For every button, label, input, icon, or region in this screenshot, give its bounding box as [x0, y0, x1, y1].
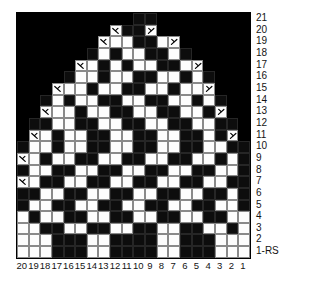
chart-cell-purl: [227, 165, 239, 177]
chart-cell-purl: [87, 188, 99, 200]
chart-cell-purl: [52, 153, 64, 165]
chart-cell-purl: [227, 246, 239, 258]
chart-cell-right-decrease: [227, 130, 239, 142]
chart-cell-purl: [145, 106, 157, 118]
knitting-chart: 212019181716151413121110987654321-RS 201…: [0, 0, 309, 281]
chart-cell-purl: [180, 60, 192, 72]
row-number-label: 19: [256, 35, 309, 47]
row-number-label: 16: [256, 70, 309, 82]
chart-cell-purl: [133, 106, 145, 118]
chart-cell-knit: [75, 188, 87, 200]
chart-cell-purl: [227, 153, 239, 165]
chart-cell-knit: [180, 234, 192, 246]
chart-cell-outside: [180, 13, 192, 25]
chart-cell-knit: [17, 188, 29, 200]
row-number-label: 18: [256, 47, 309, 59]
chart-cell-knit: [75, 106, 87, 118]
chart-cell-purl: [52, 95, 64, 107]
chart-cell-purl: [40, 165, 52, 177]
chart-cell-outside: [215, 25, 227, 37]
chart-cell-purl: [168, 130, 180, 142]
chart-grid: [16, 12, 251, 259]
chart-cell-knit: [157, 188, 169, 200]
chart-cell-purl: [215, 234, 227, 246]
chart-cell-outside: [17, 48, 29, 60]
chart-cell-purl: [180, 211, 192, 223]
chart-cell-outside: [238, 13, 250, 25]
chart-row: [17, 153, 250, 165]
chart-row: [17, 118, 250, 130]
chart-row: [17, 223, 250, 235]
chart-cell-purl: [75, 176, 87, 188]
chart-cell-knit: [227, 223, 239, 235]
chart-cell-purl: [215, 165, 227, 177]
chart-cell-purl: [75, 141, 87, 153]
chart-cell-purl: [87, 95, 99, 107]
chart-cell-purl: [40, 130, 52, 142]
chart-cell-knit: [40, 118, 52, 130]
column-number-label: 15: [74, 259, 86, 275]
k2tog-decrease-icon: [216, 107, 226, 117]
chart-cell-purl: [192, 106, 204, 118]
chart-cell-knit: [122, 234, 134, 246]
chart-cell-knit: [215, 130, 227, 142]
chart-cell-knit: [40, 223, 52, 235]
chart-cell-purl: [64, 118, 76, 130]
chart-cell-knit: [75, 153, 87, 165]
chart-cell-knit: [203, 234, 215, 246]
chart-cell-knit: [180, 118, 192, 130]
chart-cell-purl: [40, 141, 52, 153]
chart-cell-knit: [52, 246, 64, 258]
chart-cell-knit: [122, 153, 134, 165]
chart-cell-knit: [40, 153, 52, 165]
chart-cell-outside: [17, 83, 29, 95]
chart-cell-outside: [227, 36, 239, 48]
chart-cell-outside: [40, 71, 52, 83]
chart-cell-knit: [133, 71, 145, 83]
chart-cell-purl: [168, 200, 180, 212]
chart-cell-knit: [98, 141, 110, 153]
chart-cell-purl: [180, 95, 192, 107]
chart-cell-knit: [87, 48, 99, 60]
chart-cell-knit: [122, 106, 134, 118]
chart-cell-outside: [180, 25, 192, 37]
chart-cell-knit: [192, 176, 204, 188]
chart-cell-knit: [133, 246, 145, 258]
chart-cell-purl: [122, 95, 134, 107]
chart-cell-knit: [227, 118, 239, 130]
row-number-label: 1-RS: [256, 245, 309, 257]
chart-cell-knit: [157, 48, 169, 60]
chart-cell-purl: [64, 223, 76, 235]
chart-cell-knit: [87, 118, 99, 130]
chart-cell-outside: [75, 25, 87, 37]
chart-cell-knit: [122, 246, 134, 258]
chart-cell-knit: [98, 60, 110, 72]
chart-cell-knit: [180, 141, 192, 153]
chart-cell-outside: [238, 118, 250, 130]
chart-cell-knit: [203, 211, 215, 223]
chart-cell-knit: [145, 36, 157, 48]
chart-cell-purl: [122, 165, 134, 177]
chart-cell-knit: [52, 176, 64, 188]
chart-cell-purl: [180, 83, 192, 95]
chart-cell-knit: [98, 71, 110, 83]
chart-cell-knit: [75, 118, 87, 130]
column-number-label: 10: [132, 259, 144, 275]
chart-cell-outside: [215, 71, 227, 83]
chart-cell-purl: [227, 211, 239, 223]
chart-cell-knit: [157, 211, 169, 223]
chart-cell-purl: [180, 200, 192, 212]
chart-cell-purl: [168, 234, 180, 246]
chart-cell-knit: [122, 188, 134, 200]
chart-cell-purl: [145, 153, 157, 165]
chart-cell-purl: [87, 106, 99, 118]
chart-cell-purl: [122, 48, 134, 60]
chart-cell-purl: [29, 234, 41, 246]
chart-cell-outside: [227, 95, 239, 107]
row-number-label: 4: [256, 210, 309, 222]
chart-row: [17, 25, 250, 37]
chart-row: [17, 83, 250, 95]
chart-cell-outside: [29, 48, 41, 60]
chart-cell-knit: [168, 211, 180, 223]
column-number-label: 16: [63, 259, 75, 275]
